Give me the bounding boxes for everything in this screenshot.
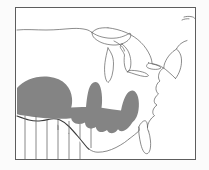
lake-erie-outline (128, 70, 149, 76)
michigan-peninsula-detail (114, 41, 125, 51)
us-canada-border-line (17, 28, 108, 33)
shaded-range-region (17, 77, 139, 134)
gulf-panhandle-coastline (129, 127, 139, 139)
lake-superior-outline (92, 33, 131, 46)
figure-root (0, 0, 209, 170)
map-drawing (16, 8, 195, 159)
maritime-provinces-outline (182, 16, 195, 20)
lake-michigan-outline (105, 48, 114, 83)
st-lawrence-river-line (108, 28, 176, 79)
lake-huron-outline (120, 44, 131, 72)
map-frame (15, 7, 196, 160)
northeast-coastline (176, 41, 188, 79)
florida-peninsula-outline (139, 121, 151, 154)
texas-mexico-coastline (89, 139, 129, 152)
